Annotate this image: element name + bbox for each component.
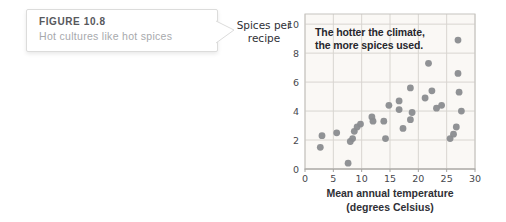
data-point bbox=[425, 60, 432, 67]
y-tick-label: 2 bbox=[293, 135, 299, 146]
data-point bbox=[458, 108, 465, 115]
data-point bbox=[349, 135, 356, 142]
x-tick-label: 10 bbox=[356, 173, 368, 184]
data-point bbox=[429, 87, 436, 94]
x-tick-label: 30 bbox=[469, 173, 481, 184]
x-axis-label-line2: (degrees Celsius) bbox=[300, 201, 480, 215]
data-point bbox=[333, 129, 340, 136]
data-point bbox=[357, 121, 364, 128]
x-axis-label: Mean annual temperature (degrees Celsius… bbox=[300, 187, 480, 214]
y-tick-label: 6 bbox=[293, 77, 299, 88]
data-point bbox=[370, 118, 377, 125]
data-point bbox=[453, 124, 460, 131]
data-point bbox=[455, 70, 462, 77]
data-point bbox=[456, 89, 463, 96]
x-tick-label: 20 bbox=[412, 173, 424, 184]
x-axis-label-line1: Mean annual temperature bbox=[300, 187, 480, 201]
y-tick-label: 8 bbox=[293, 48, 299, 59]
y-axis-label: Spices per recipe bbox=[231, 19, 297, 45]
data-point bbox=[319, 132, 326, 139]
chart-annotation-line2: the more spices used. bbox=[315, 39, 425, 52]
data-point bbox=[409, 109, 416, 116]
y-tick-label: 4 bbox=[293, 106, 299, 117]
data-point bbox=[400, 125, 407, 132]
data-point bbox=[345, 160, 352, 167]
textbook-figure: { "figure_callout": { "label": "FIGURE 1… bbox=[0, 0, 506, 222]
data-point bbox=[438, 102, 445, 109]
data-point bbox=[407, 85, 414, 92]
data-point bbox=[407, 116, 414, 123]
data-point bbox=[380, 118, 387, 125]
data-point bbox=[386, 102, 393, 109]
y-tick-label: 0 bbox=[293, 164, 299, 175]
chart-annotation: The hotter the climate, the more spices … bbox=[315, 26, 425, 51]
data-point bbox=[317, 144, 324, 151]
data-point bbox=[396, 106, 403, 113]
x-tick-label: 15 bbox=[384, 173, 396, 184]
y-axis-label-line1: Spices per bbox=[231, 19, 297, 32]
data-point bbox=[396, 98, 403, 105]
x-tick-label: 5 bbox=[330, 173, 336, 184]
data-point bbox=[382, 135, 389, 142]
data-point bbox=[422, 95, 429, 102]
chart-annotation-line1: The hotter the climate, bbox=[315, 26, 425, 39]
data-point bbox=[450, 131, 457, 138]
x-tick-label: 0 bbox=[302, 173, 308, 184]
x-tick-label: 25 bbox=[441, 173, 453, 184]
data-point bbox=[455, 37, 462, 44]
y-axis-label-line2: recipe bbox=[231, 32, 297, 45]
